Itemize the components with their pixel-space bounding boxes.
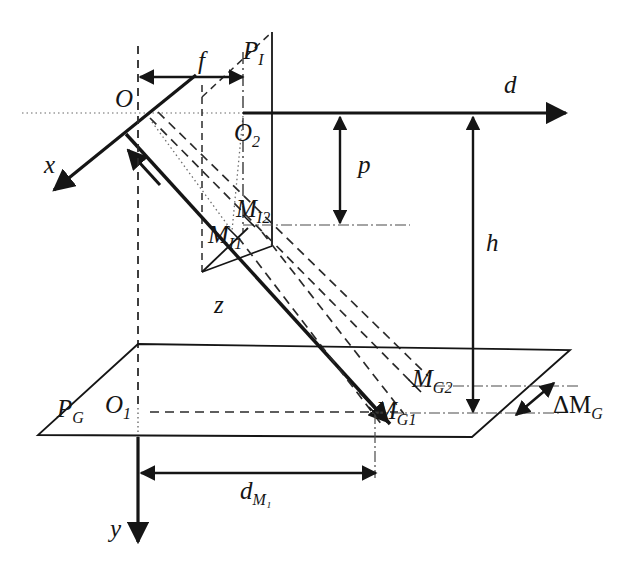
- label-image-center-O2: O2: [234, 120, 260, 145]
- label-image-center-sub: 2: [252, 133, 260, 150]
- label-ground-delta-sub: G: [591, 405, 603, 422]
- label-origin-O: O: [115, 86, 133, 111]
- projection-ray-mi1-mg1: [238, 237, 382, 425]
- label-ground-origin-O1: O1: [105, 392, 131, 417]
- point-markers: [226, 215, 421, 419]
- label-offset-p: p: [358, 152, 371, 177]
- label-image-point-2-sub: I2: [257, 209, 270, 226]
- label-image-plane-sub: I: [258, 51, 263, 68]
- label-offset-p-text: p: [358, 151, 371, 178]
- label-image-point-2-MI2: MI2: [236, 196, 270, 221]
- label-ground-point-2-text: M: [412, 365, 433, 392]
- label-focal-length-f: f: [198, 48, 205, 73]
- projection-geometry-drawing: [0, 0, 626, 576]
- axis-z-line: [126, 134, 390, 424]
- label-axis-d-text: d: [504, 71, 517, 98]
- projection-ray-mi1-lower: [262, 232, 404, 414]
- projection-ray-upper: [158, 112, 428, 376]
- label-axis-x: x: [44, 152, 55, 177]
- label-image-point-1-MI1: MI1: [208, 222, 242, 247]
- measure-delta-mg-arrow: [516, 383, 554, 415]
- construction-dotted-lines: [22, 113, 243, 231]
- label-ground-delta-MG: ΔMG: [553, 392, 603, 417]
- label-axis-z: z: [214, 292, 224, 317]
- label-ground-origin-text: O: [105, 391, 123, 418]
- label-height-h-text: h: [486, 229, 499, 256]
- label-ground-distance-dM1: dM₁: [240, 478, 271, 503]
- label-ground-point-1-MG1: MG1: [376, 398, 416, 423]
- axis-z-group: [126, 134, 390, 424]
- label-height-h: h: [486, 230, 499, 255]
- label-origin-text: O: [115, 85, 133, 112]
- label-ground-plane-text: P: [57, 395, 72, 422]
- measure-delta-mg-group: [516, 383, 554, 415]
- label-axis-y: y: [110, 516, 121, 541]
- label-ground-distance-sub: M₁: [253, 491, 272, 508]
- label-ground-point-2-MG2: MG2: [412, 366, 452, 391]
- label-ground-plane-sub: G: [72, 409, 84, 426]
- label-image-point-1-text: M: [208, 221, 229, 248]
- label-ground-plane-PG: PG: [57, 396, 84, 421]
- label-image-point-2-text: M: [236, 195, 257, 222]
- label-focal-length-text: f: [198, 47, 205, 74]
- label-ground-delta-text: ΔM: [553, 391, 591, 418]
- label-ground-origin-sub: 1: [123, 405, 131, 422]
- label-axis-x-text: x: [44, 151, 55, 178]
- figure-root: O O2 O1 PI PG f x y z d h p MI1 MI2 MG1: [0, 0, 626, 576]
- label-axis-d: d: [504, 72, 517, 97]
- label-axis-z-text: z: [214, 291, 224, 318]
- projection-rays: [150, 112, 428, 425]
- label-image-point-1-sub: I1: [229, 235, 242, 252]
- label-ground-point-1-sub: G1: [397, 411, 417, 428]
- label-ground-distance-text: d: [240, 477, 253, 504]
- label-ground-point-2-sub: G2: [433, 379, 453, 396]
- label-image-plane-text: P: [243, 37, 258, 64]
- label-ground-point-1-text: M: [376, 397, 397, 424]
- label-axis-y-text: y: [110, 515, 121, 542]
- label-image-center-text: O: [234, 119, 252, 146]
- label-image-plane-PI: PI: [243, 38, 264, 63]
